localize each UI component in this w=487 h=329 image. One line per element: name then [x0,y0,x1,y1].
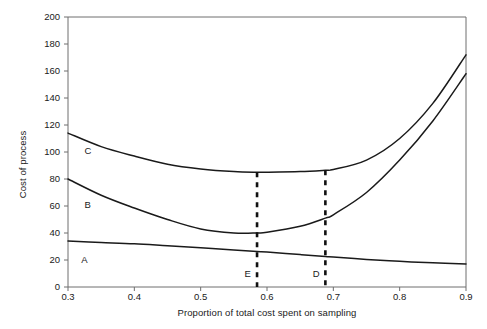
y-tick-label: 160 [34,66,60,76]
x-tick-label: 0.7 [313,292,353,302]
y-tick-label: 20 [34,255,60,265]
y-tick-label: 200 [34,12,60,22]
curve-label-b: B [85,200,91,210]
curve-label-c: C [85,146,92,156]
y-axis-label-wrapper: Cost of process [2,0,18,290]
y-axis-label: Cost of process [16,0,30,329]
annotation-label-d: D [313,269,320,279]
x-tick-label: 0.6 [247,292,287,302]
x-tick-label: 0.5 [181,292,221,302]
x-tick-label: 0.8 [380,292,420,302]
y-tick-label: 80 [34,174,60,184]
y-tick-label: 180 [34,39,60,49]
x-tick-label: 0.9 [446,292,486,302]
y-tick-label: 120 [34,120,60,130]
y-tick-label: 140 [34,93,60,103]
series-curve-c [68,55,466,173]
y-axis-tick-labels: 020406080100120140160180200 [32,0,60,329]
series-curve-b [68,74,466,234]
x-tick-label: 0.4 [114,292,154,302]
plot-area [0,0,487,329]
x-tick-label: 0.3 [48,292,88,302]
y-tick-label: 0 [34,282,60,292]
chart-container: Cost of process 020406080100120140160180… [0,0,487,329]
y-tick-label: 60 [34,201,60,211]
curve-label-a: A [81,255,87,265]
y-tick-label: 40 [34,228,60,238]
annotation-label-e: E [244,269,250,279]
y-tick-label: 100 [34,147,60,157]
series-curve-a [68,241,466,264]
x-axis-label: Proportion of total cost spent on sampli… [68,307,466,318]
